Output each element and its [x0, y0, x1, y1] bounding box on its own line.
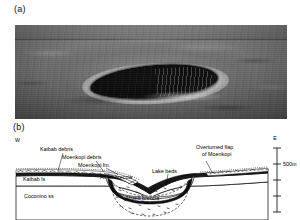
direction-west-label: W [15, 137, 20, 143]
annotation-lake-beds: Lake beds [152, 168, 177, 174]
annotation-moenkopi-fm: Moenkopi fm. [78, 162, 110, 168]
scale-bar-label: 500m [283, 161, 297, 167]
geologic-cross-section: W E 500m Kaibab debris Moenkopi debris [0, 128, 300, 220]
annotation-kaibab-debris: Kaibab debris [40, 146, 73, 152]
vertical-scale-bar [273, 148, 281, 212]
annotation-mixed-breccia: Mixed breccia [126, 195, 159, 201]
annotation-kaibab-ls: Kaibab ls [23, 176, 45, 182]
annotation-overturned-flap-line2: of Moenkopi [202, 151, 231, 157]
crater-aerial-photograph [15, 25, 287, 119]
annotation-coconino-ss: Coconino ss [24, 193, 54, 199]
photo-vignette [15, 25, 287, 119]
direction-east-label: E [273, 135, 277, 141]
panel-a-label: (a) [14, 4, 26, 14]
annotation-overturned-flap-line1: Overturned flap [196, 144, 233, 150]
annotation-moenkopi-debris: Moenkopi debris [62, 154, 102, 160]
annotation-airfall-breccia: Airfall breccia [100, 174, 132, 180]
figure-root: (a) (b) [0, 0, 300, 220]
leader-overturned-flap [206, 161, 212, 172]
